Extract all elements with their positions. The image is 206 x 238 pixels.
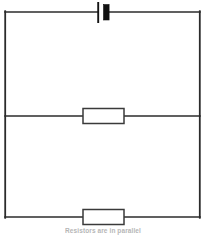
- battery-short-plate-icon: [104, 5, 110, 21]
- resistor-2-symbol: [83, 210, 124, 225]
- circuit-schematic: [0, 0, 206, 238]
- resistor-icon: [83, 210, 124, 225]
- resistor-1-symbol: [83, 109, 124, 124]
- battery-symbol: [98, 2, 109, 23]
- circuit-figure: Resistors are in parallel: [0, 0, 206, 238]
- resistor-icon: [83, 109, 124, 124]
- figure-caption: Resistors are in parallel: [0, 227, 206, 235]
